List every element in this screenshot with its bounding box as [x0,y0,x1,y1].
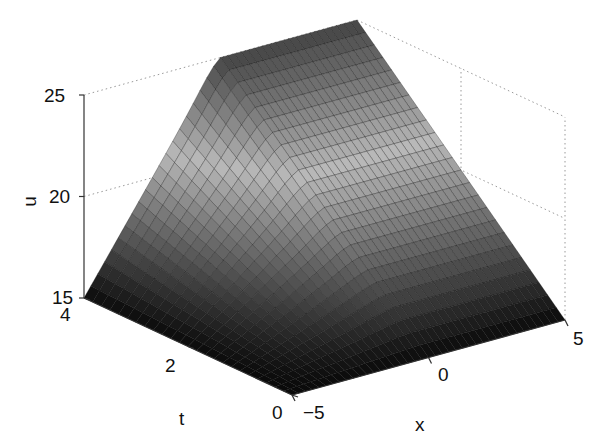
t-tick-2: 2 [165,356,176,375]
x-tick-5: 5 [573,329,584,348]
x-tick-0: 0 [438,365,449,384]
x-tick-minus5: −5 [303,403,325,422]
surface-plot [0,0,606,445]
t-axis-label: t [179,409,184,428]
z-tick-20: 20 [49,187,70,206]
t-tick-0: 0 [272,403,283,422]
surface-mesh [84,20,565,395]
t-tick-4: 4 [60,305,71,324]
z-tick-25: 25 [44,86,65,105]
z-axis-label: u [20,196,39,207]
x-axis-label: x [415,415,425,434]
